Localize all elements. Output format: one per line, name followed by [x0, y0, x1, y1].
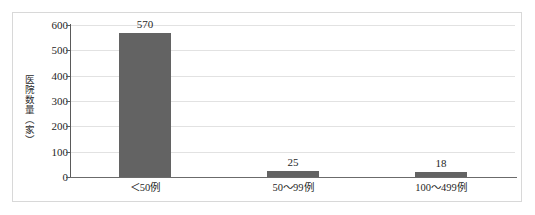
x-tick-label: 100～499例: [415, 182, 467, 194]
chart-figure: 医院数量（家） 600 500 400 300 200 100 0 570 25…: [0, 0, 535, 215]
y-axis-line: [70, 24, 71, 178]
bar-value-label: 570: [137, 19, 154, 30]
y-tick-label: 300: [38, 96, 68, 107]
y-axis-tick-labels: 600 500 400 300 200 100 0: [38, 0, 68, 215]
y-tick-label: 100: [38, 146, 68, 157]
y-tick-label: 500: [38, 45, 68, 56]
x-tick-label: ＜50例: [130, 182, 161, 194]
plot-area: [71, 25, 515, 177]
x-tick-label: 50～99例: [273, 182, 314, 194]
y-tick-label: 400: [38, 70, 68, 81]
y-axis-title: 医院数量（家）: [21, 56, 37, 164]
x-axis-line: [70, 177, 517, 178]
y-tick-label: 600: [38, 20, 68, 31]
bar-category-0[interactable]: [119, 33, 170, 177]
y-tick-label: 200: [38, 121, 68, 132]
y-tick-label: 0: [38, 172, 68, 183]
bar-value-label: 25: [288, 157, 299, 168]
bar-value-label: 18: [436, 158, 447, 169]
